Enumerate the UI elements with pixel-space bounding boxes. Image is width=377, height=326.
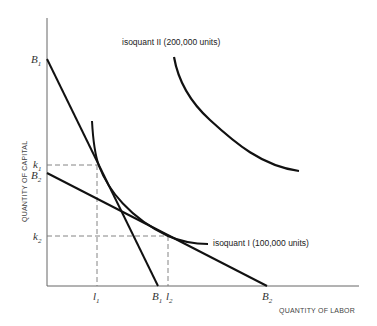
svg-text:B1: B1 (152, 290, 162, 305)
x-tick-b2: B2 (262, 290, 273, 305)
isoquant-1-curve (92, 121, 208, 244)
svg-text:B1: B1 (31, 53, 41, 68)
svg-text:k2: k2 (33, 230, 42, 245)
isoquant-2-label: isoquant II (200,000 units) (122, 37, 220, 47)
isoquant-2-curve (174, 57, 299, 171)
y-tick-k2: k2 (33, 230, 42, 245)
x-tick-l1: l1 (93, 290, 100, 305)
x-tick-b1: B1 (152, 290, 162, 305)
svg-text:l2: l2 (166, 290, 173, 305)
svg-text:B2: B2 (262, 290, 273, 305)
x-axis-title: QUANTITY OF LABOR (279, 307, 355, 315)
x-tick-l2: l2 (166, 290, 173, 305)
isoquant-1-label: isoquant I (100,000 units) (213, 238, 309, 248)
isoquant-diagram: isoquant II (200,000 units) isoquant I (… (0, 0, 377, 326)
y-tick-b1: B1 (31, 53, 41, 68)
svg-text:l1: l1 (93, 290, 100, 305)
y-axis-title: QUANTITY OF CAPITAL (21, 141, 29, 222)
